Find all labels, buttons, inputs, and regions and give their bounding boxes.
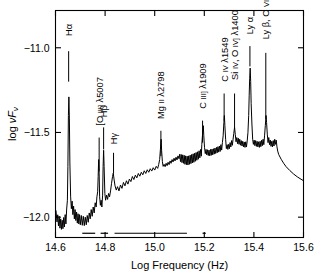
- line-id-lyalpha: Ly α: [245, 16, 255, 66]
- x-tick-label: 14.6: [45, 241, 66, 253]
- y-tick-label: −12.0: [23, 211, 50, 223]
- line-id-label: Mg II λ2798: [156, 71, 166, 119]
- line-id-hbeta: Hβ: [99, 105, 109, 149]
- line-id-label: Ly α: [245, 16, 255, 34]
- spectrum-plot: Hα[O III] λ5007HβHγMg II λ2798C III] λ19…: [0, 0, 319, 279]
- line-id-label: Hγ: [109, 133, 119, 145]
- line-id-label: Hα: [64, 23, 74, 36]
- line-id-label: C IV λ1549: [220, 37, 230, 81]
- line-id-label: Ly β, O VI λ1034: [261, 0, 271, 39]
- x-tick-labels: 14.614.815.015.215.415.6: [45, 241, 314, 253]
- y-tick-labels: −11.0−11.5−12.0: [23, 42, 50, 223]
- line-id-label: Hβ: [99, 105, 109, 117]
- line-id-lybeta: Ly β, O VI λ1034: [261, 0, 271, 119]
- spectrum-figure: Hα[O III] λ5007HβHγMg II λ2798C III] λ19…: [0, 0, 319, 279]
- x-axis-title: Log Frequency (Hz): [131, 259, 228, 271]
- x-tick-label: 15.0: [144, 241, 165, 253]
- line-id-ciii1909: C III] λ1909: [198, 63, 208, 142]
- line-id-mgii2798: Mg II λ2798: [156, 71, 166, 156]
- line-id-hgamma: Hγ: [109, 133, 119, 174]
- line-id-label: C III] λ1909: [198, 63, 208, 108]
- spectrum-trace: [56, 68, 304, 229]
- y-tick-label: −11.0: [24, 42, 50, 54]
- line-id-civ1549: C IV λ1549: [220, 37, 230, 120]
- x-tick-label: 15.2: [194, 241, 215, 253]
- line-identifications: Hα[O III] λ5007HβHγMg II λ2798C III] λ19…: [64, 0, 271, 173]
- line-id-label: Si IV, O IV] λ1400: [230, 10, 240, 80]
- line-id-halpha: Hα: [64, 23, 74, 81]
- x-tick-label: 15.4: [244, 241, 265, 253]
- x-tick-label: 14.8: [95, 241, 116, 253]
- x-tick-label: 15.6: [293, 241, 314, 253]
- y-tick-label: −11.5: [24, 126, 50, 138]
- line-id-siiv1400: Si IV, O IV] λ1400: [230, 10, 240, 129]
- y-axis-title: log νFν: [6, 107, 20, 141]
- line-id-label: [O III] λ5007: [95, 77, 105, 126]
- spectrum-curve: [56, 68, 304, 229]
